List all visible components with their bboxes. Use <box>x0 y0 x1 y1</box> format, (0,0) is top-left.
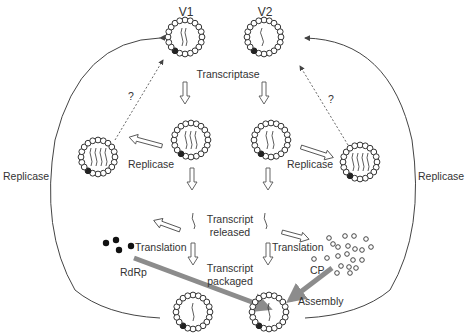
label-transcriptase: Transcriptase <box>196 68 259 80</box>
label-transcript-packaged-1: Transcript <box>207 262 253 274</box>
label-translation-left: Translation <box>135 241 187 253</box>
label-question-left: ? <box>128 90 134 102</box>
label-cp: CP <box>310 264 325 276</box>
label-transcript-packaged-2: packaged <box>207 275 253 287</box>
label-assembly: Assembly <box>298 295 344 307</box>
virion-side-left <box>78 137 118 177</box>
label-question-right: ? <box>328 93 334 105</box>
label-translation-right: Translation <box>272 241 324 253</box>
label-replicase-outer-left: Replicase <box>3 170 49 182</box>
label-v1: V1 <box>179 6 194 18</box>
virion-v1 <box>165 17 205 57</box>
label-v2: V2 <box>258 6 273 18</box>
virion-bottom-right <box>249 292 289 332</box>
virion-mid-left <box>171 120 211 160</box>
label-rdrp: RdRp <box>120 266 147 278</box>
label-replicase-outer-right: Replicase <box>418 170 464 182</box>
virion-mid-right <box>251 120 291 160</box>
label-transcript-released-2: released <box>210 226 250 238</box>
label-replicase-inner-right: Replicase <box>287 158 333 170</box>
virion-side-right <box>340 142 380 182</box>
virion-v2 <box>244 17 284 57</box>
replication-diagram: V1 V2 Transcriptase ? ? Replicase Replic… <box>0 0 465 333</box>
label-transcript-released-1: Transcript <box>207 213 253 225</box>
virion-bottom-left <box>173 292 213 332</box>
label-replicase-inner-left: Replicase <box>128 158 174 170</box>
